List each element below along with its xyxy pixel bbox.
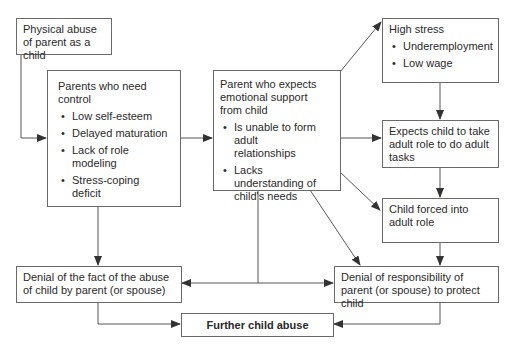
bullet-item: Lacks understanding of child's needs: [220, 164, 329, 203]
bullet-item: Stress-coping deficit: [58, 174, 142, 200]
node-title: Denial of the fact of the abuse of child…: [23, 271, 175, 297]
bullet-item: Is unable to form adult relationships: [220, 121, 319, 160]
node-further-abuse: Further child abuse: [181, 313, 334, 337]
node-title: Physical abuse of parent as a child: [23, 23, 105, 62]
bullet-item: Underemployment: [389, 40, 492, 53]
node-title: Parent who expects emotional support fro…: [220, 78, 330, 117]
node-parent-expects-support: Parent who expects emotional support fro…: [213, 70, 341, 191]
bullet-item: Lack of role modeling: [58, 144, 136, 170]
node-parents-need-control: Parents who need control Low self-esteem…: [47, 70, 181, 207]
node-title: Parents who need control: [58, 80, 170, 106]
node-physical-abuse: Physical abuse of parent as a child: [16, 18, 112, 55]
node-denial-responsibility: Denial of responsibility of parent (or s…: [334, 266, 499, 303]
node-title: Denial of responsibility of parent (or s…: [341, 271, 492, 310]
bullet-item: Low wage: [389, 57, 492, 70]
node-title: Further child abuse: [188, 319, 327, 332]
node-expects-adult-role: Expects child to take adult role to do a…: [382, 120, 499, 168]
node-high-stress: High stress Underemployment Low wage: [382, 18, 499, 83]
node-title: Expects child to take adult role to do a…: [389, 125, 492, 164]
node-title: High stress: [389, 23, 492, 36]
bullet-item: Low self-esteem: [58, 110, 170, 123]
node-title: Child forced into adult role: [389, 203, 469, 229]
bullet-item: Delayed maturation: [58, 127, 170, 140]
node-denial-fact: Denial of the fact of the abuse of child…: [16, 266, 182, 303]
node-child-forced: Child forced into adult role: [382, 198, 499, 243]
